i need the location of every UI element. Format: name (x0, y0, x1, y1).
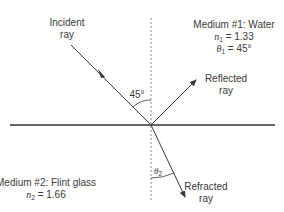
incident-angle-arc (133, 100, 151, 107)
reflected-ray-label-line2: ray (219, 85, 233, 96)
theta2-subscript: 2 (158, 170, 162, 177)
refraction-angle-label: θ2 (154, 166, 162, 177)
incident-ray-label-line2: ray (60, 29, 74, 40)
incident-ray (71, 45, 151, 125)
theta1-value: = 45° (225, 43, 252, 54)
refraction-diagram: Incident ray 45° Medium #1: Water n1 = 1… (0, 0, 284, 212)
incident-angle-label: 45° (129, 89, 144, 100)
medium1-index: n1 = 1.33 (214, 31, 254, 43)
incident-ray-label-line1: Incident (49, 17, 84, 28)
medium1-angle: θ1 = 45° (216, 43, 251, 55)
medium2-index: n2 = 1.66 (26, 189, 66, 201)
n2-value: = 1.66 (35, 189, 66, 200)
reflected-ray (151, 80, 196, 125)
reflected-ray-label-line1: Reflected (205, 73, 247, 84)
refracted-ray (151, 125, 185, 197)
medium2-title: Medium #2: Flint glass (0, 177, 96, 188)
n1-value: = 1.33 (223, 31, 254, 42)
medium1-title: Medium #1: Water (193, 19, 275, 30)
refracted-ray-label-line2: ray (199, 193, 213, 204)
refracted-ray-label-line1: Refracted (184, 181, 227, 192)
